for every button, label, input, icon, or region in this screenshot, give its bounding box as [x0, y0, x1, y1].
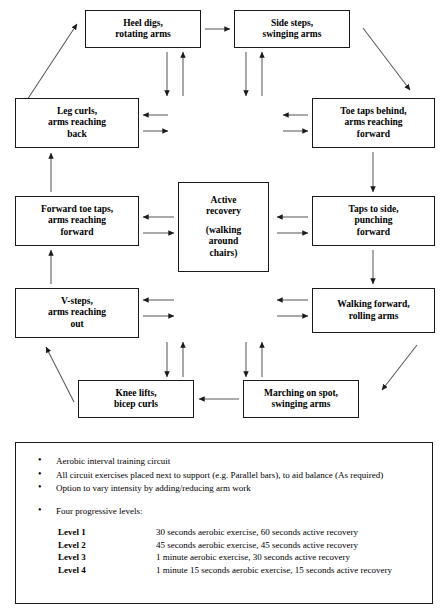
node-leg-curls-label: Leg curls,arms reachingback: [48, 106, 106, 141]
level-1-desc: 30 seconds aerobic exercise, 60 seconds …: [156, 526, 392, 539]
node-forward-toe-taps[interactable]: Forward toe taps,arms reachingforward: [15, 196, 139, 246]
note-bullet-2: All circuit exercises placed next to sup…: [30, 469, 418, 482]
level-3-desc: 1 minute aerobic exercise, 30 seconds ac…: [156, 551, 392, 564]
arrow-side-to-toebehind: [363, 28, 410, 90]
node-leg-curls[interactable]: Leg curls,arms reachingback: [15, 98, 139, 148]
node-heel-digs[interactable]: Heel digs,rotating arms: [85, 10, 201, 48]
arrow-walking-to-marching: [382, 345, 417, 390]
node-marching-on-spot-label: Marching on spot,swinging arms: [264, 388, 338, 411]
notes-panel: Aerobic interval training circuit All ci…: [15, 442, 433, 604]
active-recovery-line-5: chairs): [210, 248, 238, 260]
node-v-steps-label: V-steps,arms reachingout: [48, 296, 106, 331]
node-knee-lifts-label: Knee lifts,bicep curls: [114, 388, 158, 411]
active-recovery-line-2: recovery: [206, 206, 241, 218]
level-3-label: Level 3: [58, 551, 156, 564]
node-toe-taps-behind-label: Toe taps behind,arms reachingforward: [340, 106, 406, 141]
level-1-label: Level 1: [58, 526, 156, 539]
notes-bullet-list: Aerobic interval training circuit All ci…: [30, 455, 418, 517]
circuit-flow-diagram: Heel digs,rotating arms Side steps,swing…: [0, 0, 448, 435]
note-bullet-3: Option to vary intensity by adding/reduc…: [30, 482, 418, 495]
table-row: Level 3 1 minute aerobic exercise, 30 se…: [58, 551, 392, 564]
table-row: Level 1 30 seconds aerobic exercise, 60 …: [58, 526, 392, 539]
node-knee-lifts[interactable]: Knee lifts,bicep curls: [78, 380, 194, 418]
node-marching-on-spot[interactable]: Marching on spot,swinging arms: [243, 380, 359, 418]
node-walking-forward-label: Walking forward,rolling arms: [337, 299, 409, 322]
node-side-steps-label: Side steps,swinging arms: [263, 18, 322, 41]
node-taps-to-side[interactable]: Taps to side,punchingforward: [312, 196, 435, 246]
table-row: Level 2 45 seconds aerobic exercise, 45 …: [58, 539, 392, 552]
node-walking-forward[interactable]: Walking forward,rolling arms: [312, 288, 435, 333]
level-4-label: Level 4: [58, 564, 156, 577]
node-forward-toe-taps-label: Forward toe taps,arms reachingforward: [41, 204, 113, 239]
levels-table: Level 1 30 seconds aerobic exercise, 60 …: [58, 526, 392, 576]
active-recovery-line-1: Active: [211, 195, 237, 207]
active-recovery-line-3: (walking: [206, 225, 241, 237]
arrow-knee-to-vsteps: [46, 347, 74, 402]
node-toe-taps-behind[interactable]: Toe taps behind,arms reachingforward: [312, 98, 435, 148]
node-side-steps[interactable]: Side steps,swinging arms: [234, 10, 350, 48]
node-v-steps[interactable]: V-steps,arms reachingout: [15, 288, 139, 338]
level-2-desc: 45 seconds aerobic exercise, 45 seconds …: [156, 539, 392, 552]
arrow-legcurls-to-heel: [27, 24, 77, 100]
level-4-desc: 1 minute 15 seconds aerobic exercise, 15…: [156, 564, 392, 577]
level-2-label: Level 2: [58, 539, 156, 552]
note-bullet-4: Four progressive levels:: [30, 505, 418, 518]
note-bullet-1: Aerobic interval training circuit: [30, 455, 418, 468]
node-active-recovery[interactable]: Active recovery (walking around chairs): [178, 182, 269, 272]
table-row: Level 4 1 minute 15 seconds aerobic exer…: [58, 564, 392, 577]
node-taps-to-side-label: Taps to side,punchingforward: [348, 204, 398, 239]
active-recovery-line-4: around: [209, 236, 238, 248]
node-heel-digs-label: Heel digs,rotating arms: [115, 18, 171, 41]
